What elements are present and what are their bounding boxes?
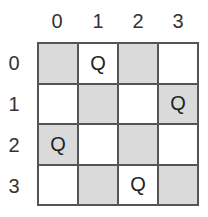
queen-piece: Q bbox=[90, 52, 106, 75]
chess-board: QQQQ bbox=[37, 42, 199, 206]
column-label-2: 2 bbox=[118, 10, 158, 33]
board-cell bbox=[38, 165, 78, 206]
board-cell-queen: Q bbox=[158, 84, 198, 125]
board-cell-queen: Q bbox=[118, 165, 158, 206]
column-label-0: 0 bbox=[37, 10, 77, 33]
board-cell bbox=[78, 165, 118, 206]
queen-piece: Q bbox=[130, 173, 146, 196]
board-cell bbox=[158, 165, 198, 206]
board-cell bbox=[38, 84, 78, 125]
board-cell bbox=[118, 84, 158, 125]
board-cell-queen: Q bbox=[38, 124, 78, 165]
queen-piece: Q bbox=[170, 92, 186, 115]
board-cell bbox=[38, 43, 78, 84]
board-cell bbox=[158, 124, 198, 165]
board-cell bbox=[118, 124, 158, 165]
row-label-0: 0 bbox=[4, 52, 24, 75]
column-label-1: 1 bbox=[78, 10, 118, 33]
queen-piece: Q bbox=[50, 133, 66, 156]
row-label-3: 3 bbox=[4, 175, 24, 198]
row-label-1: 1 bbox=[4, 93, 24, 116]
board-cell bbox=[158, 43, 198, 84]
row-label-2: 2 bbox=[4, 134, 24, 157]
board-cell bbox=[118, 43, 158, 84]
column-label-3: 3 bbox=[158, 10, 198, 33]
board-cell bbox=[78, 84, 118, 125]
board-cell bbox=[78, 124, 118, 165]
board-cell-queen: Q bbox=[78, 43, 118, 84]
